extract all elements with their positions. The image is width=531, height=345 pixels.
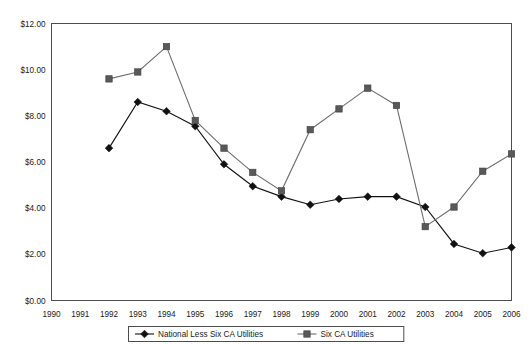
y-axis-tick-label: $0.00 (25, 297, 46, 306)
chart-container: $0.00$2.00$4.00$6.00$8.00$10.00$12.00 19… (0, 0, 531, 345)
y-axis-tick-label: $12.00 (20, 20, 45, 29)
data-point-marker (422, 223, 428, 229)
data-point-marker (250, 169, 256, 175)
x-axis-tick-labels: 1990199119921993199419951996199719981999… (42, 310, 521, 319)
data-point-marker (192, 117, 198, 123)
y-axis-tick-label: $2.00 (25, 250, 46, 259)
data-point-marker (135, 69, 141, 75)
y-axis-tick-label: $10.00 (20, 66, 45, 75)
y-axis-tick-label: $4.00 (25, 204, 46, 213)
x-axis-tick-label: 1996 (215, 310, 234, 319)
x-axis-tick-label: 1991 (71, 310, 90, 319)
x-axis-tick-label: 1993 (129, 310, 148, 319)
x-axis-tick-label: 1990 (42, 310, 61, 319)
legend-item-label[interactable]: National Less Six CA Utilities (158, 330, 263, 339)
legend-sample-marker (304, 331, 310, 337)
x-axis-tick-label: 2005 (474, 310, 493, 319)
data-point-marker (106, 76, 112, 82)
plot-area-frame (52, 24, 512, 301)
data-point-marker (307, 126, 313, 132)
x-axis-tick-label: 1997 (244, 310, 263, 319)
x-axis-tick-label: 2006 (502, 310, 521, 319)
x-axis-tick-label: 2002 (387, 310, 406, 319)
x-axis-tick-label: 2001 (359, 310, 378, 319)
y-axis-tick-label: $8.00 (25, 112, 46, 121)
data-point-marker (221, 145, 227, 151)
data-point-marker (508, 151, 514, 157)
y-axis-tick-label: $6.00 (25, 158, 46, 167)
line-chart: $0.00$2.00$4.00$6.00$8.00$10.00$12.00 19… (0, 0, 531, 345)
x-axis-tick-label: 1992 (100, 310, 119, 319)
x-axis-tick-label: 1994 (157, 310, 176, 319)
data-point-marker (278, 188, 284, 194)
data-point-marker (163, 43, 169, 49)
x-axis-tick-label: 1998 (272, 310, 291, 319)
x-axis-tick-label: 2004 (445, 310, 464, 319)
data-point-marker (393, 102, 399, 108)
data-point-marker (451, 204, 457, 210)
x-axis-tick-label: 1999 (301, 310, 320, 319)
data-point-marker (365, 85, 371, 91)
legend-item-label[interactable]: Six CA Utilities (321, 330, 374, 339)
chart-legend[interactable]: National Less Six CA UtilitiesSix CA Uti… (129, 327, 404, 342)
data-point-marker (480, 168, 486, 174)
x-axis-tick-label: 2000 (330, 310, 349, 319)
x-axis-tick-label: 2003 (416, 310, 435, 319)
x-axis-tick-label: 1995 (186, 310, 205, 319)
data-point-marker (336, 106, 342, 112)
